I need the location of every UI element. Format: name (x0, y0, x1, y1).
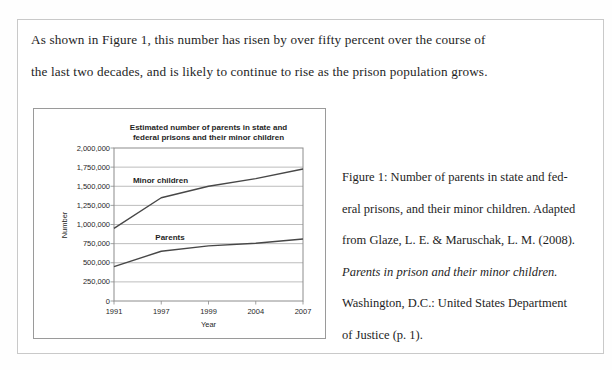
x-tick-label: 2004 (247, 307, 264, 316)
caption-line-2: eral prisons, and their minor children. … (342, 194, 598, 226)
caption-line-3: from Glaze, L. E. & Maruschak, L. M. (20… (342, 225, 598, 257)
y-tick-label: 1,250,000 (77, 201, 110, 210)
x-tick-label: 1991 (106, 307, 123, 316)
series-label-minor-children: Minor children (133, 176, 188, 185)
x-tick-label: 1997 (153, 307, 170, 316)
chart-title-line-2: federal prisons and their minor children (133, 133, 284, 142)
figure-caption: Figure 1: Number of parents in state and… (342, 162, 598, 351)
y-axis-label: Number (60, 211, 69, 238)
paragraph-line-2: the last two decades, and is likely to c… (31, 56, 571, 88)
y-tick-label: 2,000,000 (77, 144, 110, 153)
caption-line-6: of Justice (p. 1). (342, 320, 598, 352)
x-axis-label: Year (201, 320, 217, 329)
y-tick-label: 1,750,000 (77, 163, 110, 172)
paragraph-line-1: As shown in Figure 1, this number has ri… (31, 24, 571, 56)
figure1-chart: 0250,000500,000750,0001,000,0001,250,000… (33, 108, 326, 339)
y-tick-label: 1,500,000 (77, 182, 110, 191)
y-tick-label: 500,000 (83, 258, 110, 267)
y-tick-label: 0 (106, 297, 110, 306)
x-tick-label: 1999 (200, 307, 217, 316)
document-page-border: As shown in Figure 1, this number has ri… (17, 19, 604, 354)
body-paragraph: As shown in Figure 1, this number has ri… (31, 24, 571, 87)
figure1-line-chart-svg: 0250,000500,000750,0001,000,0001,250,000… (34, 109, 325, 338)
caption-line-4-italic-title: Parents in prison and their minor childr… (342, 257, 598, 289)
caption-line-1: Figure 1: Number of parents in state and… (342, 162, 598, 194)
y-tick-label: 250,000 (83, 277, 110, 286)
x-tick-label: 2007 (295, 307, 312, 316)
caption-line-5: Washington, D.C.: United States Departme… (342, 288, 598, 320)
y-tick-label: 750,000 (83, 239, 110, 248)
chart-title-line-1: Estimated number of parents in state and (130, 123, 287, 132)
y-tick-label: 1,000,000 (77, 220, 110, 229)
series-label-parents: Parents (155, 233, 185, 242)
